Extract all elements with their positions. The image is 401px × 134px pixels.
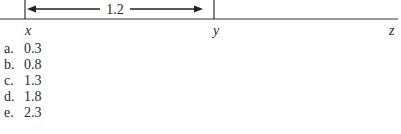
point-label-x: x (25, 24, 31, 38)
option-value: 0.3 (24, 41, 42, 56)
option-letter: d. (4, 89, 24, 105)
option-d[interactable]: d.1.8 (4, 89, 42, 105)
option-value: 1.3 (24, 73, 42, 88)
option-letter: c. (4, 73, 24, 89)
number-line-diagram: 1.2 (0, 0, 401, 40)
option-b[interactable]: b.0.8 (4, 57, 42, 73)
option-letter: a. (4, 41, 24, 57)
option-value: 1.8 (24, 89, 42, 104)
option-c[interactable]: c.1.3 (4, 73, 42, 89)
option-letter: b. (4, 57, 24, 73)
option-value: 2.3 (24, 105, 42, 120)
option-value: 0.8 (24, 57, 42, 72)
option-letter: e. (4, 105, 24, 121)
answer-options: a.0.3 b.0.8 c.1.3 d.1.8 e.2.3 (4, 41, 42, 121)
point-label-z: z (389, 24, 394, 38)
segment-length-label: 1.2 (106, 2, 124, 17)
arrow-right-head-icon (194, 6, 203, 13)
option-a[interactable]: a.0.3 (4, 41, 42, 57)
arrow-left-head-icon (27, 6, 36, 13)
point-label-y: y (213, 24, 219, 38)
option-e[interactable]: e.2.3 (4, 105, 42, 121)
